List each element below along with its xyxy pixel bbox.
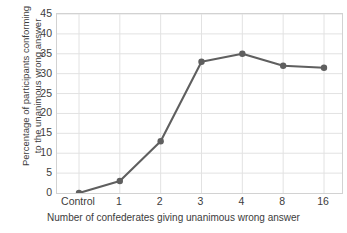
x-axis-tick-label: 4 — [238, 195, 244, 207]
x-axis-tick-label: 16 — [317, 195, 329, 207]
x-axis-title: Number of confederates giving unanimous … — [0, 212, 347, 223]
y-axis-tick-label: 15 — [40, 126, 52, 138]
vertical-gridlines — [79, 14, 324, 193]
data-point — [157, 138, 163, 144]
y-axis-tick-label: 40 — [40, 27, 52, 39]
y-axis-tick-labels: 051015202530354045 — [26, 0, 52, 233]
x-axis-tick-label: 2 — [157, 195, 163, 207]
y-axis-tick-label: 5 — [46, 166, 52, 178]
data-point — [198, 59, 204, 65]
horizontal-gridlines — [57, 14, 342, 173]
line-chart: Percentage of participants conforming to… — [0, 0, 347, 233]
plot-svg — [57, 14, 342, 193]
x-axis-tick-label: 8 — [279, 195, 285, 207]
y-axis-tick-label: 0 — [46, 186, 52, 198]
x-axis-tick-label: 3 — [198, 195, 204, 207]
y-axis-tick-label: 35 — [40, 47, 52, 59]
y-axis-tick-label: 25 — [40, 87, 52, 99]
data-point — [76, 190, 82, 193]
data-point — [239, 51, 245, 57]
x-axis-tick-label: Control — [61, 195, 95, 207]
y-axis-tick-label: 45 — [40, 7, 52, 19]
y-axis-tick-label: 10 — [40, 146, 52, 158]
y-axis-tick-label: 20 — [40, 106, 52, 118]
plot-area — [56, 13, 343, 194]
x-axis-tick-labels: Control1234816 — [56, 195, 341, 209]
data-point — [117, 178, 123, 184]
x-axis-tick-label: 1 — [116, 195, 122, 207]
data-point — [321, 65, 327, 71]
data-point — [280, 63, 286, 69]
y-axis-tick-label: 30 — [40, 67, 52, 79]
